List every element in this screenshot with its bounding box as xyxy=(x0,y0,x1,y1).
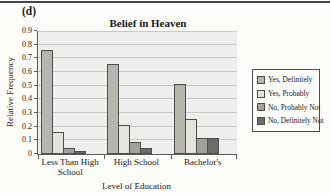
legend-item: No, Probably Not xyxy=(257,103,317,111)
legend: Yes, DefinitelyYes, ProbablyNo, Probably… xyxy=(252,69,320,132)
bar-no-definitely-not xyxy=(74,151,86,154)
legend-item: No, Definitely Not xyxy=(257,117,317,125)
legend-label: Yes, Definitely xyxy=(268,76,312,83)
plot-area xyxy=(37,31,237,155)
y-tick-label: 0.3 xyxy=(22,109,32,117)
gridline xyxy=(38,31,237,32)
legend-item: Yes, Definitely xyxy=(257,76,317,84)
legend-swatch xyxy=(257,103,265,111)
y-tick-label: 0.1 xyxy=(22,136,32,144)
legend-label: No, Definitely Not xyxy=(268,117,324,124)
category-label: Bachelor's xyxy=(170,158,236,168)
category-label: Less Than High School xyxy=(37,158,103,178)
y-axis: 00.10.20.30.40.50.60.70.80.9 xyxy=(0,31,37,154)
x-axis-category-labels: Less Than High SchoolHigh SchoolBachelor… xyxy=(37,158,236,180)
legend-swatch xyxy=(257,90,265,98)
y-tick-label: 0.7 xyxy=(22,54,32,62)
y-tick-label: 0.2 xyxy=(22,123,32,131)
legend-swatch xyxy=(257,76,265,84)
legend-label: No, Probably Not xyxy=(268,104,320,111)
gridline xyxy=(38,112,237,113)
chart-title: Belief in Heaven xyxy=(37,17,259,29)
gridline xyxy=(38,85,237,86)
top-divider xyxy=(0,1,330,3)
y-tick-label: 0.5 xyxy=(22,82,32,90)
category-label: High School xyxy=(104,158,170,168)
figure-panel: (d) Belief in Heaven Relative Frequency … xyxy=(0,0,330,193)
y-tick-label: 0.6 xyxy=(22,68,32,76)
y-tick-label: 0 xyxy=(28,150,32,158)
legend-swatch xyxy=(257,117,265,125)
legend-item: Yes, Probably xyxy=(257,90,317,98)
x-axis-title: Level of Education xyxy=(37,181,236,191)
figure-label: (d) xyxy=(22,5,36,17)
gridline xyxy=(38,126,237,127)
x-tick-mark xyxy=(236,155,237,159)
bar-no-definitely-not xyxy=(140,148,152,154)
gridline xyxy=(38,98,237,99)
y-tick-label: 0.8 xyxy=(22,41,32,49)
gridline xyxy=(38,57,237,58)
y-tick-label: 0.4 xyxy=(22,95,32,103)
y-tick-label: 0.9 xyxy=(22,27,32,35)
gridline xyxy=(38,44,237,45)
bar-no-definitely-not xyxy=(207,138,219,154)
legend-label: Yes, Probably xyxy=(268,90,309,97)
gridline xyxy=(38,71,237,72)
